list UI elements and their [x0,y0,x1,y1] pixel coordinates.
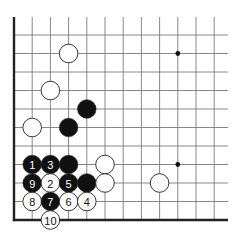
black-stone [59,118,78,137]
move-number: 7 [47,196,53,208]
move-number: 5 [66,178,72,190]
move-number: 6 [66,196,72,208]
white-stone [150,174,169,193]
white-stone [23,118,42,137]
white-stone: 10 [41,211,60,230]
black-stone [78,174,97,193]
hoshi-point [175,162,180,167]
move-number: 9 [29,178,35,190]
move-number: 8 [29,196,35,208]
white-stone: 8 [23,192,42,211]
black-stone: 5 [59,174,78,193]
white-stone [96,174,115,193]
move-number: 2 [47,178,53,190]
white-stone [96,155,115,174]
move-number: 3 [47,159,53,171]
hoshi-point [175,51,180,56]
black-stone: 7 [41,192,60,211]
white-stone: 4 [78,192,97,211]
move-number: 10 [44,215,56,227]
black-stone: 9 [23,174,42,193]
move-number: 1 [29,159,35,171]
white-stone: 6 [59,192,78,211]
white-stone [59,44,78,63]
black-stone: 3 [41,155,60,174]
white-stone: 2 [41,174,60,193]
go-board: 13925876410 [0,0,238,241]
move-number: 4 [84,196,90,208]
black-stone [59,155,78,174]
white-stone [41,81,60,100]
black-stone [78,100,97,119]
black-stone: 1 [23,155,42,174]
